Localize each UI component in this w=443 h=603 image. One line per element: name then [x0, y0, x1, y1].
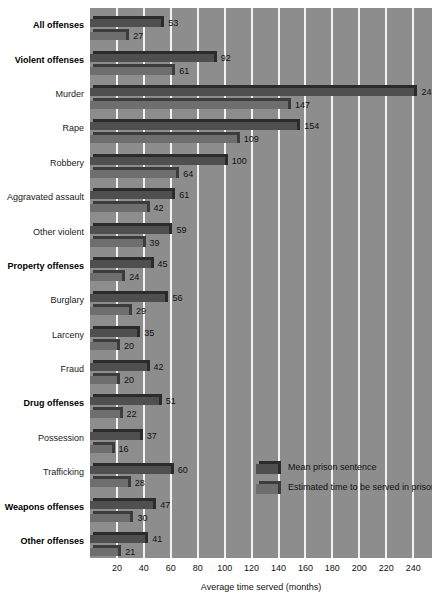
- tick-label-200: 200: [345, 563, 373, 573]
- bar-mean: [90, 85, 414, 96]
- tick-label-120: 120: [238, 563, 266, 573]
- tick-label-40: 40: [130, 563, 158, 573]
- category-label-trafficking: Trafficking: [0, 467, 84, 477]
- bar-mean: [90, 394, 159, 405]
- bar-value-label-estimated: 42: [154, 203, 164, 214]
- legend-label-estimated: Estimated time to be served in prison: [288, 482, 432, 492]
- bar-mean: [90, 463, 171, 474]
- tick-label-20: 20: [103, 563, 131, 573]
- bar-estimated: [90, 407, 120, 418]
- bar-estimated: [90, 339, 117, 350]
- bar-value-label-estimated: 39: [150, 238, 160, 249]
- bar-value-label-mean: 41: [152, 534, 162, 545]
- bar-estimated: [90, 545, 118, 556]
- tick-label-160: 160: [291, 563, 319, 573]
- bar-mean: [90, 532, 145, 543]
- tick-label-60: 60: [157, 563, 185, 573]
- bar-value-label-mean: 45: [158, 259, 168, 270]
- category-label-rape: Rape: [0, 123, 84, 133]
- bar-estimated: [90, 98, 288, 109]
- bar-mean: [90, 257, 151, 268]
- bar-value-label-estimated: 27: [133, 31, 143, 42]
- bar-value-label-estimated: 20: [124, 375, 134, 386]
- bar-value-label-estimated: 61: [179, 66, 189, 77]
- bar-value-label-mean: 42: [154, 362, 164, 373]
- bar-value-label-mean: 154: [304, 121, 319, 132]
- category-label-property-offenses: Property offenses: [0, 261, 84, 271]
- bar-value-label-estimated: 109: [244, 134, 259, 145]
- legend-swatch-mean: [256, 461, 278, 474]
- bar-estimated: [90, 236, 143, 247]
- category-label-other-violent: Other violent: [0, 227, 84, 237]
- bar-value-label-mean: 100: [232, 156, 247, 167]
- bar-mean: [90, 154, 225, 165]
- bar-mean: [90, 223, 169, 234]
- category-label-larceny: Larceny: [0, 330, 84, 340]
- tick-label-100: 100: [211, 563, 239, 573]
- category-label-drug-offenses: Drug offenses: [0, 398, 84, 408]
- tick-label-140: 140: [265, 563, 293, 573]
- bar-value-label-estimated: 29: [136, 306, 146, 317]
- bar-mean: [90, 188, 172, 199]
- bar-value-label-mean: 60: [178, 465, 188, 476]
- tick-label-80: 80: [184, 563, 212, 573]
- bar-value-label-estimated: 64: [183, 169, 193, 180]
- legend-item-estimated: Estimated time to be served in prison: [256, 480, 432, 500]
- tick-label-180: 180: [318, 563, 346, 573]
- chart-legend: Mean prison sentence Estimated time to b…: [256, 460, 432, 500]
- category-label-possession: Possession: [0, 433, 84, 443]
- bar-estimated: [90, 373, 117, 384]
- bar-value-label-estimated: 30: [137, 513, 147, 524]
- bar-mean: [90, 119, 297, 130]
- bar-estimated: [90, 476, 128, 487]
- bar-value-label-estimated: 24: [129, 272, 139, 283]
- bar-value-label-mean: 51: [166, 396, 176, 407]
- category-label-other-offenses: Other offenses: [0, 536, 84, 546]
- bar-value-label-estimated: 28: [135, 478, 145, 489]
- tick-label-240: 240: [399, 563, 427, 573]
- bar-chart: 5327926124114715410910064614259394524562…: [0, 0, 443, 603]
- bar-mean: [90, 429, 140, 440]
- bar-value-label-mean: 35: [144, 328, 154, 339]
- legend-label-mean: Mean prison sentence: [288, 462, 377, 472]
- bar-value-label-estimated: 22: [127, 409, 137, 420]
- bar-estimated: [90, 167, 176, 178]
- bar-estimated: [90, 442, 112, 453]
- bar-mean: [90, 498, 153, 509]
- bar-estimated: [90, 511, 130, 522]
- legend-item-mean: Mean prison sentence: [256, 460, 432, 480]
- bar-value-label-mean: 47: [160, 500, 170, 511]
- bar-value-label-mean: 92: [221, 53, 231, 64]
- bar-estimated: [90, 64, 172, 75]
- bar-value-label-estimated: 147: [295, 100, 310, 111]
- bar-mean: [90, 16, 161, 27]
- bar-value-label-mean: 241: [421, 87, 432, 98]
- plot-area: 5327926124114715410910064614259394524562…: [90, 8, 432, 558]
- bar-estimated: [90, 29, 126, 40]
- category-label-weapons-offenses: Weapons offenses: [0, 502, 84, 512]
- bar-value-label-mean: 61: [179, 190, 189, 201]
- category-label-fraud: Fraud: [0, 364, 84, 374]
- bar-mean: [90, 51, 214, 62]
- category-label-murder: Murder: [0, 89, 84, 99]
- category-label-aggravated-assault: Aggravated assault: [0, 192, 84, 202]
- tick-label-220: 220: [372, 563, 400, 573]
- bar-estimated: [90, 201, 147, 212]
- x-axis-title: Average time served (months): [90, 582, 432, 592]
- bar-value-label-mean: 59: [176, 225, 186, 236]
- bar-mean: [90, 291, 165, 302]
- category-label-violent-offenses: Violent offenses: [0, 55, 84, 65]
- bar-value-label-mean: 53: [168, 18, 178, 29]
- category-label-robbery: Robbery: [0, 158, 84, 168]
- bar-value-label-estimated: 21: [125, 547, 135, 558]
- bar-estimated: [90, 270, 122, 281]
- bar-mean: [90, 360, 147, 371]
- legend-swatch-estimated: [256, 481, 278, 494]
- bar-estimated: [90, 132, 237, 143]
- category-label-burglary: Burglary: [0, 295, 84, 305]
- bar-estimated: [90, 304, 129, 315]
- bar-mean: [90, 326, 137, 337]
- bar-value-label-estimated: 16: [119, 444, 129, 455]
- bar-value-label-estimated: 20: [124, 341, 134, 352]
- category-label-all-offenses: All offenses: [0, 20, 84, 30]
